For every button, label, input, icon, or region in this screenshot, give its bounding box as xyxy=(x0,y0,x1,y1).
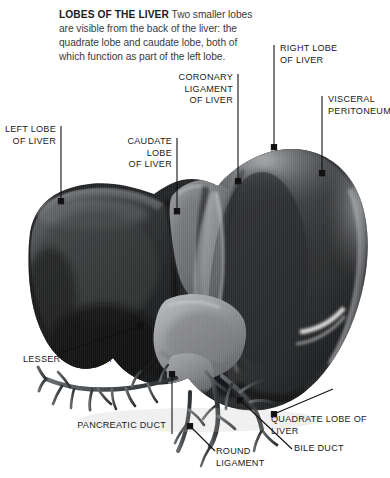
label-right-lobe: RIGHT LOBE OF LIVER xyxy=(280,43,352,66)
label-left-lobe: LEFT LOBE OF LIVER xyxy=(4,124,56,147)
label-visceral-peritoneum: VISCERAL PERITONEUM xyxy=(328,94,390,117)
label-coronary-ligament: CORONARY LIGAMENT OF LIVER xyxy=(178,72,233,107)
label-bile-duct: BILE DUCT xyxy=(294,443,360,455)
caption-lead: LOBES OF THE LIVER xyxy=(59,9,169,20)
label-round-ligament: ROUND LIGAMENT xyxy=(216,446,276,469)
label-quadrate-lobe: QUADRATE LOBE OF LIVER xyxy=(271,414,390,437)
label-pancreatic-duct: PANCREATIC DUCT xyxy=(74,420,166,432)
label-caudate-lobe: CAUDATE LOBE OF LIVER xyxy=(104,136,172,171)
figure-page: Grayscale photograph of a human liver se… xyxy=(0,0,390,478)
figure-caption: LOBES OF THE LIVER Two smaller lobes are… xyxy=(59,8,257,64)
label-lesser-omentum: LESSER OMENTUM xyxy=(23,354,123,366)
